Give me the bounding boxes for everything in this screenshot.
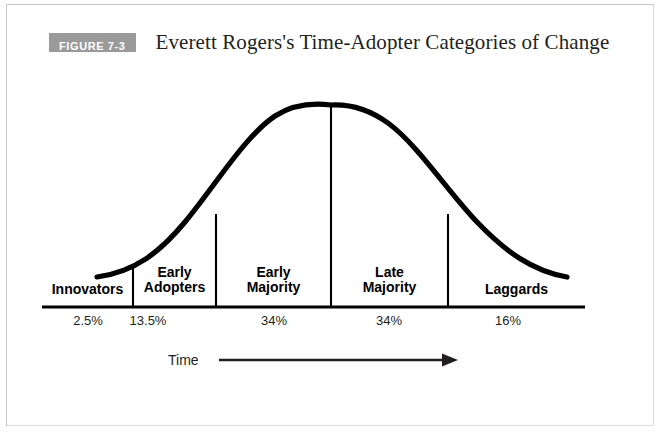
category-label-early-adopters: Early Adopters [133, 265, 216, 295]
figure-screenshot: FIGURE 7-3 Everett Rogers's Time-Adopter… [0, 0, 666, 436]
category-label-innovators: Innovators [42, 282, 133, 297]
category-label-early-majority: Early Majority [216, 265, 331, 295]
category-label-late-majority: Late Majority [331, 265, 448, 295]
percent-label-early-adopters: 13.5% [108, 313, 188, 328]
percent-label-late-majority: 34% [349, 313, 429, 328]
percent-label-early-majority: 34% [234, 313, 314, 328]
category-label-laggards: Laggards [448, 282, 585, 297]
time-arrow-icon [219, 354, 458, 367]
chart-svg [0, 0, 666, 436]
bell-curve-chart: Innovators Early Adopters Early Majority… [0, 0, 666, 436]
percent-label-laggards: 16% [468, 313, 548, 328]
time-axis-label: Time [168, 352, 199, 368]
